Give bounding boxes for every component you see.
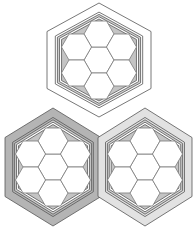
hexagon-module-diagram <box>0 0 195 235</box>
diagram-canvas <box>0 0 195 235</box>
module-bottom-left <box>5 108 101 226</box>
module-top <box>47 3 151 117</box>
module-bottom-right <box>98 108 192 226</box>
